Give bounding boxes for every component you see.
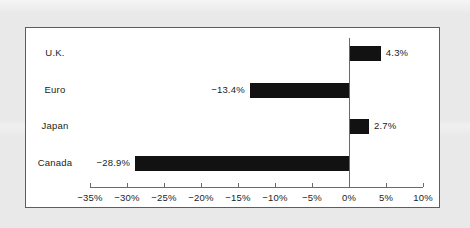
x-axis-tick-label: 10%	[398, 192, 448, 203]
x-axis-tick	[127, 183, 128, 187]
chart-frame: U.K.4.3%Euro−13.4%Japan2.7%Canada−28.9%−…	[25, 27, 440, 208]
x-axis-tick	[164, 183, 165, 187]
x-axis-tick	[386, 183, 387, 187]
x-axis-tick	[312, 183, 313, 187]
bar-chart-plot-area: U.K.4.3%Euro−13.4%Japan2.7%Canada−28.9%−…	[26, 28, 439, 207]
x-axis-tick	[238, 183, 239, 187]
zero-axis-line	[349, 38, 350, 187]
x-axis-line	[90, 187, 423, 188]
bar-value-label: −28.9%	[96, 157, 130, 168]
bar	[135, 156, 349, 171]
x-axis-tick	[423, 183, 424, 187]
bar-value-label: 2.7%	[374, 120, 396, 131]
category-label: Canada	[26, 157, 84, 168]
bar-value-label: 4.3%	[386, 47, 408, 58]
category-label: Japan	[26, 120, 84, 131]
bar	[349, 46, 381, 61]
category-label: Euro	[26, 84, 84, 95]
bar	[250, 83, 349, 98]
x-axis-tick	[349, 183, 350, 187]
x-axis-tick	[275, 183, 276, 187]
bar	[349, 119, 369, 134]
category-label: U.K.	[26, 47, 84, 58]
x-axis-tick	[201, 183, 202, 187]
x-axis-tick	[90, 183, 91, 187]
screenshot-stage: U.K.4.3%Euro−13.4%Japan2.7%Canada−28.9%−…	[0, 0, 470, 228]
bar-value-label: −13.4%	[211, 84, 245, 95]
